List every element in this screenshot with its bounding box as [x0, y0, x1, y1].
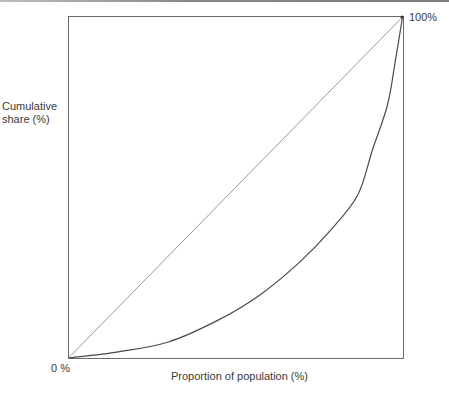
equality-line	[69, 17, 403, 358]
max-label: 100%	[409, 11, 437, 24]
top-right-marker	[401, 16, 404, 19]
y-axis-label-line1: Cumulative	[2, 100, 57, 113]
x-axis-label: Proportion of population (%)	[171, 370, 308, 383]
lorenz-chart	[0, 0, 449, 396]
origin-label: 0 %	[51, 362, 70, 375]
y-axis-label: Cumulative share (%)	[2, 100, 57, 126]
y-axis-label-line2: share (%)	[2, 113, 57, 126]
